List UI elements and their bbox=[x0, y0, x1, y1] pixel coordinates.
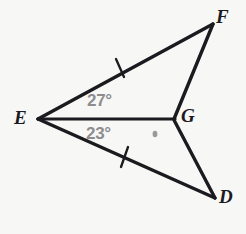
geometry-canvas bbox=[0, 0, 246, 234]
angle-label-GED: 23° bbox=[86, 125, 111, 142]
segment-GD bbox=[174, 120, 215, 198]
vertex-label-G: G bbox=[181, 106, 195, 125]
interior-dot-icon bbox=[153, 131, 158, 137]
vertex-label-F: F bbox=[216, 7, 229, 26]
geometry-figure: E F G D 27° 23° bbox=[0, 0, 246, 234]
segment-ED bbox=[38, 119, 215, 198]
vertex-label-E: E bbox=[14, 108, 27, 127]
angle-label-FEG: 27° bbox=[87, 92, 112, 109]
vertex-label-D: D bbox=[219, 187, 233, 206]
